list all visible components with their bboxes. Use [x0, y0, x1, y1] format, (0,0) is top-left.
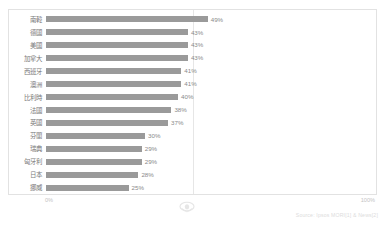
bar	[46, 42, 188, 48]
bar-category-label: 英國	[9, 119, 46, 126]
bar-row: 英國37%	[9, 117, 376, 130]
bar-track: 43%	[46, 39, 376, 52]
bar	[46, 107, 171, 113]
bar-track: 49%	[46, 13, 376, 26]
bar-rows: 南韓49%德國43%美國43%加拿大43%西班牙41%澳洲41%比利時40%法國…	[9, 13, 376, 194]
plot-area: 南韓49%德國43%美國43%加拿大43%西班牙41%澳洲41%比利時40%法國…	[8, 9, 377, 195]
bar	[46, 68, 181, 74]
value-axis: 0% 100%	[8, 196, 377, 208]
bar-track: 37%	[46, 117, 376, 130]
bar-value-label: 37%	[171, 119, 183, 127]
bar-value-label: 25%	[132, 184, 144, 192]
bar-row: 德國43%	[9, 26, 376, 39]
bar-row: 日本28%	[9, 168, 376, 181]
bar-value-label: 41%	[184, 80, 196, 88]
bar-track: 28%	[46, 168, 376, 181]
bar	[46, 55, 188, 61]
bar	[46, 146, 142, 152]
bar-row: 匈牙利29%	[9, 155, 376, 168]
bar-category-label: 德國	[9, 29, 46, 36]
bar-row: 瑞典29%	[9, 142, 376, 155]
bar-value-label: 30%	[148, 132, 160, 140]
axis-tick-min: 0%	[45, 196, 53, 204]
bar-category-label: 西班牙	[9, 68, 46, 75]
bar-value-label: 29%	[145, 158, 157, 166]
bar-track: 29%	[46, 142, 376, 155]
bar-value-label: 43%	[191, 41, 203, 49]
bar	[46, 172, 138, 178]
bar-value-label: 41%	[184, 67, 196, 75]
bar-category-label: 澳洲	[9, 81, 46, 88]
bar-category-label: 挪威	[9, 184, 46, 191]
bar-value-label: 29%	[145, 145, 157, 153]
bar	[46, 16, 208, 22]
bar	[46, 133, 145, 139]
source-attribution: Source: Ipsos MORI[1] & News[2]	[296, 211, 378, 219]
bar	[46, 81, 181, 87]
bar	[46, 94, 178, 100]
bar-track: 43%	[46, 26, 376, 39]
bar-category-label: 比利時	[9, 94, 46, 101]
bar-row: 法國38%	[9, 104, 376, 117]
bar-track: 41%	[46, 65, 376, 78]
bar-row: 芬蘭30%	[9, 129, 376, 142]
bar-category-label: 加拿大	[9, 55, 46, 62]
bar-track: 43%	[46, 52, 376, 65]
bar-row: 比利時40%	[9, 91, 376, 104]
bar-row: 南韓49%	[9, 13, 376, 26]
bar-category-label: 南韓	[9, 16, 46, 23]
bar-category-label: 瑞典	[9, 145, 46, 152]
bar-track: 41%	[46, 78, 376, 91]
bar-category-label: 日本	[9, 171, 46, 178]
bar-category-label: 匈牙利	[9, 158, 46, 165]
bar-row: 澳洲41%	[9, 78, 376, 91]
bar-track: 40%	[46, 91, 376, 104]
bar-value-label: 43%	[191, 54, 203, 62]
bar-row: 加拿大43%	[9, 52, 376, 65]
bar-row: 西班牙41%	[9, 65, 376, 78]
bar-value-label: 43%	[191, 29, 203, 37]
bar	[46, 159, 142, 165]
bar-category-label: 美國	[9, 42, 46, 49]
bar-value-label: 28%	[141, 171, 153, 179]
bar-row: 挪威25%	[9, 181, 376, 194]
bar-value-label: 38%	[174, 106, 186, 114]
bar-track: 38%	[46, 104, 376, 117]
bar-track: 25%	[46, 181, 376, 194]
bar-value-label: 40%	[181, 93, 193, 101]
bar	[46, 29, 188, 35]
bar-category-label: 法國	[9, 107, 46, 114]
bar-category-label: 芬蘭	[9, 132, 46, 139]
bar-track: 30%	[46, 129, 376, 142]
bar	[46, 185, 129, 191]
bar-row: 美國43%	[9, 39, 376, 52]
bar-chart-figure: 南韓49%德國43%美國43%加拿大43%西班牙41%澳洲41%比利時40%法國…	[0, 0, 388, 226]
axis-tick-max: 100%	[361, 196, 375, 204]
bar-track: 29%	[46, 155, 376, 168]
bar	[46, 120, 168, 126]
bar-value-label: 49%	[211, 16, 223, 24]
